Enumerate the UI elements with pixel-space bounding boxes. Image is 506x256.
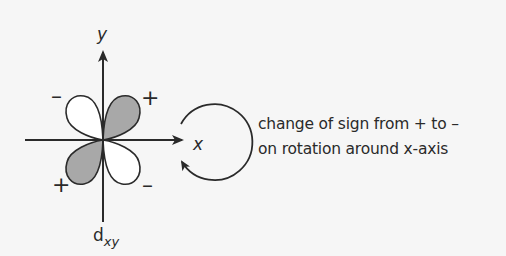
sign-top-left: – <box>51 83 62 108</box>
rotation-arrow-icon <box>181 104 252 180</box>
y-axis-label: y <box>96 24 108 44</box>
lobe-bottom-right <box>103 140 140 184</box>
orbital-label-subscript: xy <box>103 234 120 249</box>
sign-bottom-right: – <box>142 172 153 197</box>
caption-line-2: on rotation around x-axis <box>258 137 459 162</box>
lobe-top-left <box>66 96 103 140</box>
orbital-label: dxy <box>93 225 119 249</box>
sign-top-right: + <box>141 85 159 110</box>
lobe-bottom-left <box>66 140 103 184</box>
caption: change of sign from + to – on rotation a… <box>258 112 459 162</box>
sign-bottom-left: + <box>52 172 70 197</box>
orbital-label-main: d <box>93 225 104 245</box>
lobe-top-right <box>103 96 140 140</box>
x-axis-label: x <box>192 134 204 154</box>
caption-line-1: change of sign from + to – <box>258 112 459 137</box>
